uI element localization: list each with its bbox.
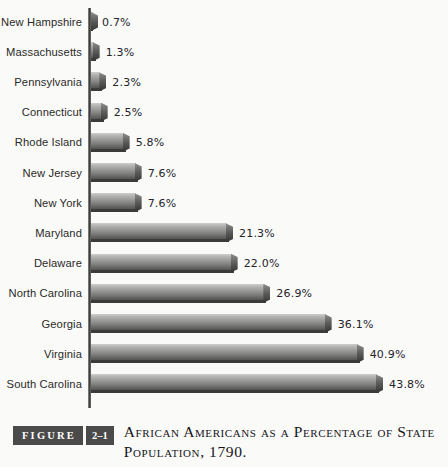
- bar-row: Delaware22.0%: [0, 254, 448, 273]
- bar: [91, 314, 332, 333]
- bar-value-label: 22.0%: [244, 257, 280, 270]
- bar-row: New York7.6%: [0, 193, 448, 212]
- bar-category-label: Connecticut: [22, 106, 82, 118]
- bar-row: Massachusetts1.3%: [0, 42, 448, 61]
- bar-underline: [91, 330, 328, 333]
- bar-value-label: 26.9%: [276, 287, 312, 300]
- figure-word-chip: FIGURE: [13, 426, 83, 445]
- bar-value-label: 2.5%: [114, 106, 143, 119]
- bar: [91, 12, 96, 31]
- bar-underline: [91, 239, 229, 242]
- figure-number-chip: 2–1: [86, 426, 114, 445]
- bar: [91, 193, 142, 212]
- bar-value-label: 36.1%: [338, 317, 374, 330]
- bar-underline: [91, 390, 379, 393]
- bar-underline: [91, 149, 126, 152]
- bar: [91, 374, 383, 393]
- bar-category-label: South Carolina: [7, 378, 82, 390]
- bar-value-label: 40.9%: [370, 347, 406, 360]
- bar-category-label: Massachusetts: [6, 46, 82, 58]
- bar-value-label: 0.7%: [102, 15, 131, 28]
- bar: [91, 344, 364, 363]
- bar-value-label: 5.8%: [136, 136, 165, 149]
- bar-value-label: 1.3%: [106, 45, 135, 58]
- bar-row: New Hampshire0.7%: [0, 12, 448, 31]
- bar-category-label: New York: [34, 197, 82, 209]
- bar-category-label: Rhode Island: [15, 136, 82, 148]
- bar: [91, 223, 233, 242]
- figure-caption-text: African Americans as a Percentage of Sta…: [124, 422, 436, 462]
- bar: [91, 42, 100, 61]
- bar-row: North Carolina26.9%: [0, 284, 448, 303]
- bar-value-label: 43.8%: [389, 377, 425, 390]
- figure-tag-group: FIGURE 2–1: [13, 426, 114, 445]
- bar: [91, 72, 106, 91]
- bar-category-label: Delaware: [34, 257, 82, 269]
- bar-underline: [91, 179, 138, 182]
- figure-container: New Hampshire0.7%Massachusetts1.3%Pennsy…: [0, 0, 448, 467]
- bar-row: Pennsylvania2.3%: [0, 72, 448, 91]
- bar: [91, 254, 238, 273]
- bar-underline: [91, 119, 104, 122]
- bar-category-label: Pennsylvania: [14, 76, 82, 88]
- bar-category-label: Maryland: [35, 227, 82, 239]
- bar-underline: [91, 209, 138, 212]
- bar: [91, 133, 130, 152]
- bar-category-label: New Jersey: [23, 167, 82, 179]
- bar-category-label: Georgia: [41, 318, 82, 330]
- bar-category-label: North Carolina: [8, 287, 82, 299]
- bar-row: Maryland21.3%: [0, 223, 448, 242]
- bar-underline: [91, 270, 234, 273]
- bar: [91, 284, 270, 303]
- bar-underline: [91, 28, 93, 31]
- bar: [91, 103, 108, 122]
- bar-row: Georgia36.1%: [0, 314, 448, 333]
- bar-underline: [91, 300, 266, 303]
- bar-chart: New Hampshire0.7%Massachusetts1.3%Pennsy…: [0, 0, 448, 414]
- bar-category-label: Virginia: [44, 348, 82, 360]
- bar-value-label: 7.6%: [148, 166, 177, 179]
- bar-value-label: 2.3%: [112, 75, 141, 88]
- bar-row: Connecticut2.5%: [0, 103, 448, 122]
- bar-underline: [91, 360, 360, 363]
- figure-caption: FIGURE 2–1 African Americans as a Percen…: [0, 420, 448, 467]
- bar-row: Virginia40.9%: [0, 344, 448, 363]
- bar-value-label: 21.3%: [239, 226, 275, 239]
- bar: [91, 163, 142, 182]
- bar-row: South Carolina43.8%: [0, 374, 448, 393]
- bar-underline: [91, 88, 102, 91]
- bar-row: Rhode Island5.8%: [0, 133, 448, 152]
- bar-category-label: New Hampshire: [1, 16, 82, 28]
- bar-underline: [91, 58, 96, 61]
- bar-row: New Jersey7.6%: [0, 163, 448, 182]
- bar-value-label: 7.6%: [148, 196, 177, 209]
